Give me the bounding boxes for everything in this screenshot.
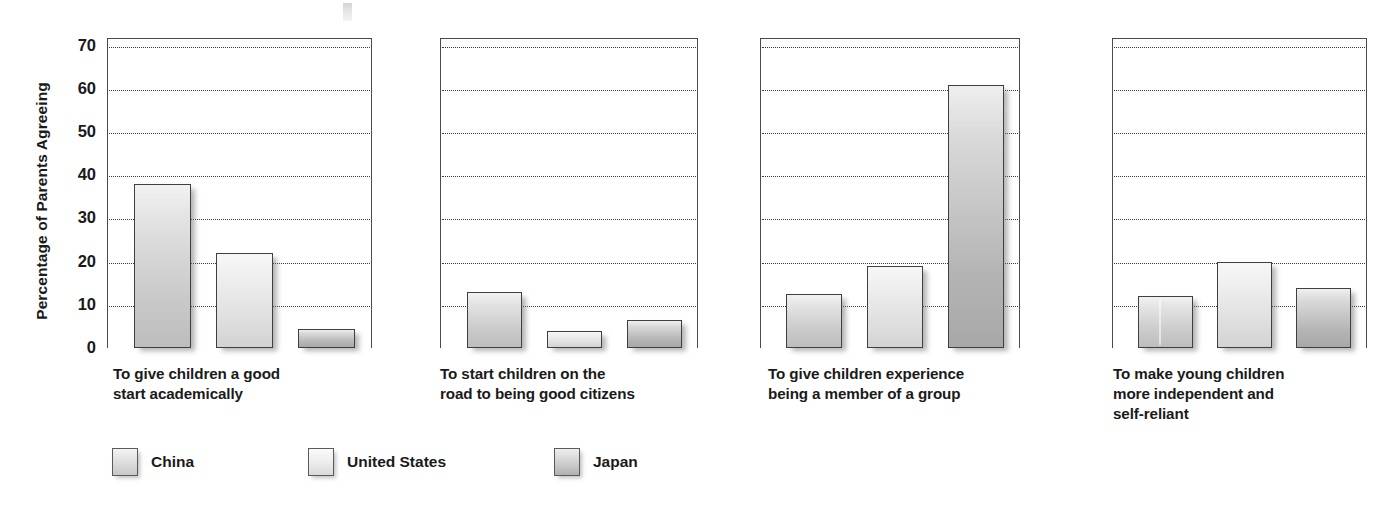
caption-line: being a member of a group [768,384,1098,404]
y-tick-70: 70 [52,37,96,54]
legend-label: Japan [593,453,638,471]
bar-china-1 [467,292,522,348]
bar-japan-1 [627,320,682,348]
category-caption-0: To give children a goodstart academicall… [113,364,413,404]
y-tick-40: 40 [52,166,96,183]
caption-line: more independent and [1113,384,1373,404]
bar-group [1112,38,1367,348]
caption-line: To give children a good [113,364,413,384]
caption-line: To give children experience [768,364,1098,384]
category-caption-1: To start children on theroad to being go… [440,364,770,404]
bar-japan-3 [1296,288,1351,348]
bar-group [107,38,372,348]
legend-item-us[interactable]: United States [308,445,446,479]
bar-china-2 [786,294,842,348]
bar-seam [1159,299,1161,345]
caption-line: self-reliant [1113,404,1373,424]
bar-japan-0 [298,329,355,348]
chart-panel-citizens [440,38,698,348]
chart-panel-group [760,38,1020,348]
legend-swatch-icon-japan [554,448,580,476]
caption-line: start academically [113,384,413,404]
caption-line: road to being good citizens [440,384,770,404]
chart-panel-independent [1112,38,1367,348]
y-tick-10: 10 [52,296,96,313]
y-tick-30: 30 [52,209,96,226]
caption-line: To start children on the [440,364,770,384]
category-caption-2: To give children experiencebeing a membe… [768,364,1098,404]
category-caption-3: To make young childrenmore independent a… [1113,364,1373,424]
bar-us-3 [1217,262,1272,348]
bar-china-3 [1138,296,1193,348]
bar-china-0 [134,184,191,348]
scan-artifact [343,3,352,21]
bar-group [440,38,698,348]
legend-label: China [151,453,194,471]
caption-line: To make young children [1113,364,1373,384]
y-axis-title: Percentage of Parents Agreeing [33,41,51,361]
legend-label: United States [347,453,446,471]
legend-swatch-icon-china [112,448,138,476]
y-axis-tick-labels: 706050403020100 [52,32,96,356]
y-tick-20: 20 [52,253,96,270]
legend-item-japan[interactable]: Japan [554,445,638,479]
bar-group [760,38,1020,348]
bar-us-1 [547,331,602,348]
bar-us-0 [216,253,273,348]
legend-swatch-icon-us [308,448,334,476]
chart-panel-academic [107,38,372,348]
y-tick-0: 0 [52,339,96,356]
y-tick-50: 50 [52,123,96,140]
legend-item-china[interactable]: China [112,445,194,479]
bar-japan-2 [948,85,1004,348]
bar-chart-figure: Percentage of Parents Agreeing 706050403… [0,0,1373,506]
bar-us-2 [867,266,923,348]
y-tick-60: 60 [52,80,96,97]
